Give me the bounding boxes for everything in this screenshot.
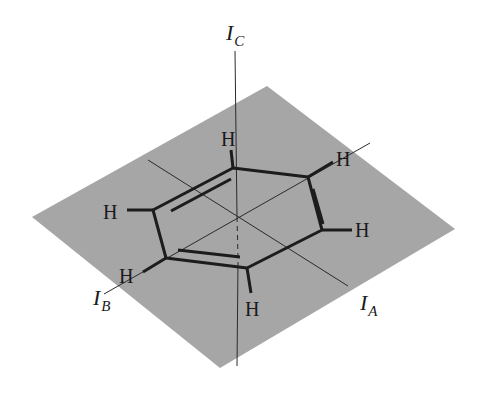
hydrogen-atom-label: H (355, 219, 369, 241)
molecular-plane (32, 86, 455, 368)
ch-bond-1 (231, 150, 233, 168)
hydrogen-atom-label: H (336, 148, 350, 170)
axis-label-ib: IB (92, 285, 111, 314)
hydrogen-atom-label: H (221, 128, 235, 150)
axis-label-ic: IC (225, 20, 245, 49)
hydrogen-atom-label: H (103, 201, 117, 223)
axis-label-ia: IA (359, 290, 378, 319)
hydrogen-atom-label: H (119, 265, 133, 287)
benzene-inertia-diagram: HHHHHH ICIAIB (0, 0, 494, 396)
hydrogen-atom-label: H (245, 298, 259, 320)
